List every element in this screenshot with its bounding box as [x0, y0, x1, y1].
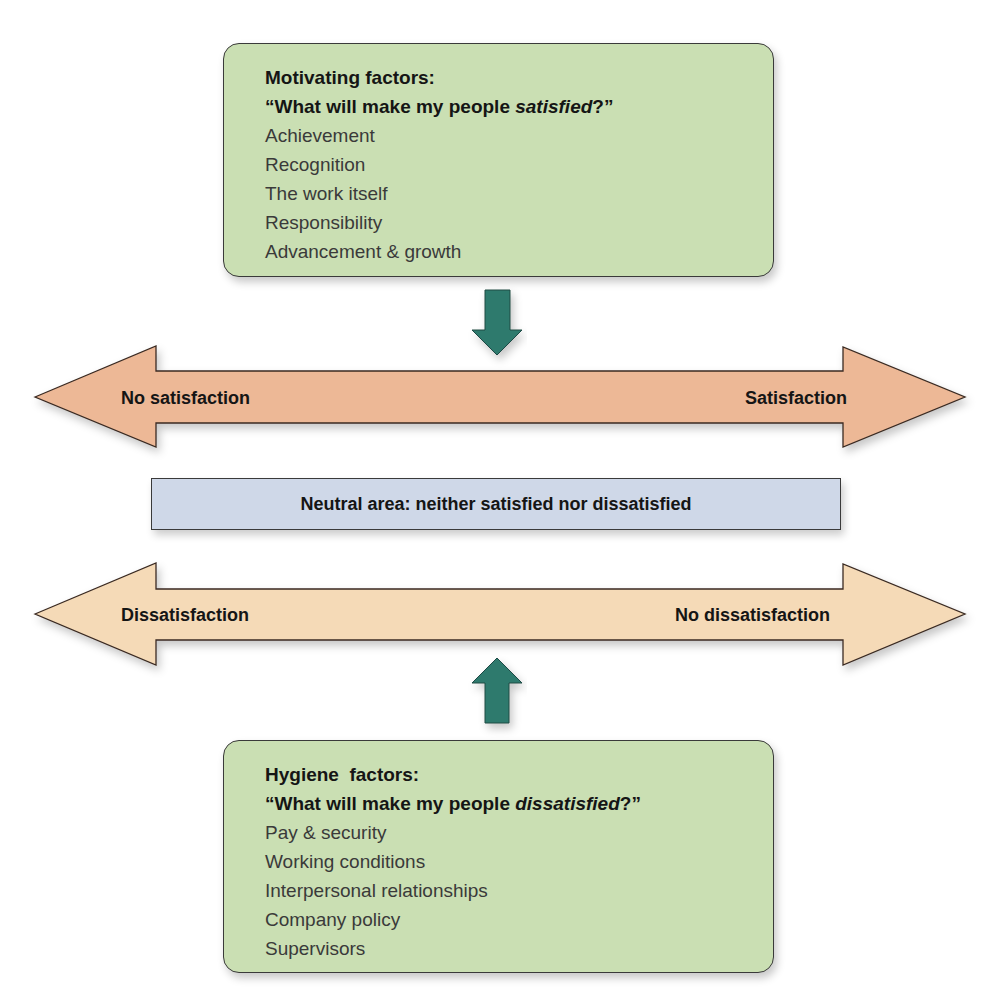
neutral-area-box: Neutral area: neither satisfied nor diss… — [151, 478, 841, 530]
down-arrow-icon — [472, 290, 522, 355]
hygiene-factors-box: Hygiene factors: “What will make my peop… — [223, 740, 774, 973]
question-emphasis: dissatisfied — [515, 793, 620, 814]
hygiene-factor-item: Company policy — [265, 905, 773, 934]
dissatisfaction-label: Dissatisfaction — [121, 604, 249, 626]
no-satisfaction-label: No satisfaction — [121, 387, 250, 409]
hygiene-factors-title: Hygiene factors: — [265, 760, 773, 789]
hygiene-factor-item: Pay & security — [265, 818, 773, 847]
no-dissatisfaction-label: No dissatisfaction — [675, 604, 830, 626]
hygiene-factor-item: Supervisors — [265, 934, 773, 963]
up-arrow-icon — [472, 658, 522, 723]
hygiene-factors-question: “What will make my people dissatisfied?” — [265, 789, 773, 818]
hygiene-factor-item: Interpersonal relationships — [265, 876, 773, 905]
satisfaction-label: Satisfaction — [745, 387, 847, 409]
hygiene-factor-item: Working conditions — [265, 847, 773, 876]
